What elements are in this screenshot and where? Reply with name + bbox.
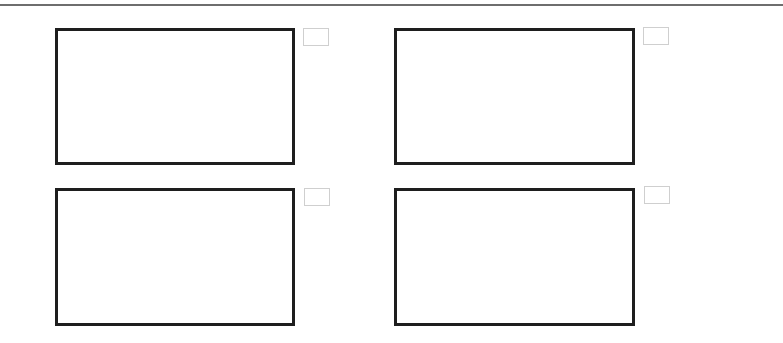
top-divider [0,4,783,6]
panel-tag-top-left[interactable] [303,28,329,46]
panel-tag-top-right[interactable] [643,27,669,45]
panel-bottom-left [55,188,295,326]
panel-tag-bottom-left[interactable] [304,188,330,206]
panel-top-right [394,28,635,165]
panel-bottom-right [394,188,635,326]
panel-tag-bottom-right[interactable] [644,186,670,204]
panel-top-left [55,28,295,165]
